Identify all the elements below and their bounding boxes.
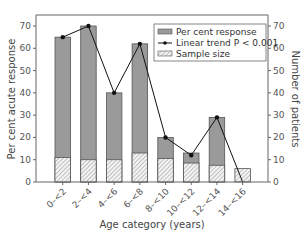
bar-group: [158, 137, 174, 182]
trend-point: [86, 24, 90, 28]
y-tick-label: 20: [20, 132, 32, 142]
chart: 0102030405060700102030405060700–<22–<44–…: [0, 0, 302, 236]
y-tick-label: 30: [20, 110, 32, 120]
y-tick-label: 40: [20, 88, 32, 98]
y-tick-label: 0: [25, 177, 31, 187]
bar-sample-size: [132, 153, 148, 182]
y2-tick-label: 70: [273, 21, 285, 31]
y-tick-label: 60: [20, 43, 32, 53]
bar-sample-size: [106, 160, 122, 182]
bar-group: [81, 26, 97, 182]
trend-point: [215, 115, 219, 119]
trend-point: [112, 91, 116, 95]
y-tick-label: 50: [20, 66, 32, 76]
y-tick-label: 10: [20, 155, 32, 165]
legend-label: Per cent response: [176, 27, 257, 37]
x-tick-label: 6–<8: [122, 186, 146, 210]
y2-axis-title: Number of patients: [290, 51, 301, 148]
bar-sample-size: [158, 159, 174, 182]
bar-sample-size: [184, 163, 200, 182]
bar-group: [55, 37, 71, 182]
bar-sample-size: [55, 157, 71, 182]
bar-sample-size: [235, 169, 251, 182]
legend-label: Sample size: [176, 49, 231, 59]
legend-swatch-hatch: [158, 51, 172, 56]
trend-point: [189, 153, 193, 157]
bar-per-cent-response: [81, 26, 97, 182]
bar-sample-size: [81, 160, 97, 182]
bar-group: [209, 117, 225, 182]
x-tick-label: 2–<4: [70, 186, 94, 210]
legend-label: Linear trend P < 0.001: [176, 38, 278, 48]
bar-sample-size: [209, 165, 225, 182]
legend-swatch-bar: [158, 29, 172, 34]
x-axis-title: Age category (years): [99, 219, 204, 230]
x-tick-label: 4–<6: [96, 186, 120, 210]
x-tick-label: 14–<16: [216, 186, 248, 218]
y2-tick-label: 30: [273, 110, 285, 120]
bar-group: [106, 93, 122, 182]
y2-tick-label: 20: [273, 132, 285, 142]
bar-group: [235, 169, 251, 182]
trend-point: [138, 42, 142, 46]
x-tick-label: 0–<2: [44, 186, 68, 210]
y-tick-label: 70: [20, 21, 32, 31]
y2-tick-label: 10: [273, 155, 285, 165]
y2-tick-label: 50: [273, 66, 285, 76]
legend: Per cent responseLinear trend P < 0.001S…: [154, 24, 278, 61]
y-axis-title: Per cent acute response: [6, 39, 17, 160]
y2-tick-label: 40: [273, 88, 285, 98]
trend-point: [61, 35, 65, 39]
trend-point: [163, 135, 167, 139]
y2-tick-label: 0: [273, 177, 279, 187]
